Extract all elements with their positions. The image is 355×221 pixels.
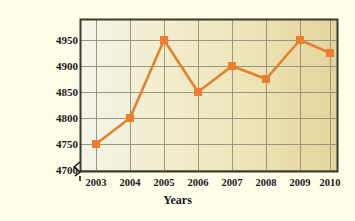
x-axis-tick-labels: 2003 2004 2005 2006 2007 2008 2009 2010 — [0, 0, 355, 221]
x-tick-label: 2010 — [310, 178, 350, 189]
x-axis-title: Years — [0, 193, 355, 208]
line-chart-figure: Number of students enrolled in college 4… — [0, 0, 355, 221]
